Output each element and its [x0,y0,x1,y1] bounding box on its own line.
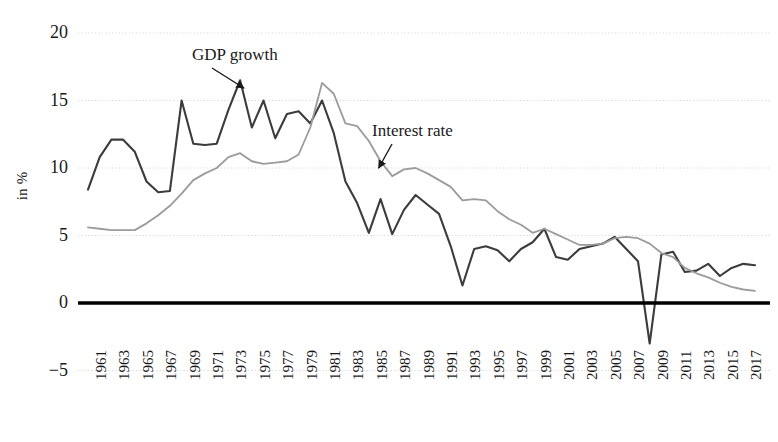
x-tick-label: 1967 [164,350,179,380]
x-tick-label: 1977 [281,350,296,380]
x-tick-label: 2005 [609,350,624,380]
x-tick-label: 1993 [468,350,483,380]
x-tick-label: 1995 [492,350,507,380]
x-tick-label: 1963 [117,350,132,380]
x-tick-label: 2003 [585,350,600,380]
annotation-gdp-growth: GDP growth [192,46,278,63]
x-tick-label: 1985 [375,350,390,380]
x-tick-label: 1969 [188,350,203,380]
annotation-interest-rate: Interest rate [372,122,453,139]
x-tick-label: 1973 [234,350,249,380]
x-tick-label: 2007 [632,350,647,380]
annotation-arrow [212,68,244,88]
x-tick-label: 1971 [211,350,226,380]
x-tick-label: 1975 [258,350,273,380]
x-tick-label: 2009 [656,350,671,380]
x-tick-label: 1999 [539,350,554,380]
x-tick-label: 1983 [351,350,366,380]
y-tick-label: −5 [22,361,68,379]
x-tick-label: 1961 [94,350,109,380]
x-tick-label: 1965 [141,350,156,380]
x-tick-label: 2017 [749,350,764,380]
x-tick-label: 1991 [445,350,460,380]
x-tick-label: 1981 [328,350,343,380]
series-line-interest-rate [88,83,755,291]
x-tick-label: 1989 [422,350,437,380]
x-tick-label: 2011 [679,351,694,380]
y-tick-label: 20 [22,23,68,41]
x-tick-label: 1997 [515,350,530,380]
y-tick-label: 5 [22,226,68,244]
x-tick-label: 1979 [305,350,320,380]
x-tick-label: 1987 [398,350,413,380]
x-tick-label: 2001 [562,350,577,380]
y-tick-label: 10 [22,158,68,176]
x-tick-label: 2013 [702,350,717,380]
x-tick-label: 2015 [726,350,741,380]
chart-container: in % 20151050−5 196119631965196719691971… [0,0,778,442]
y-tick-label: 0 [22,293,68,311]
y-tick-label: 15 [22,91,68,109]
annotation-arrow [379,144,392,168]
